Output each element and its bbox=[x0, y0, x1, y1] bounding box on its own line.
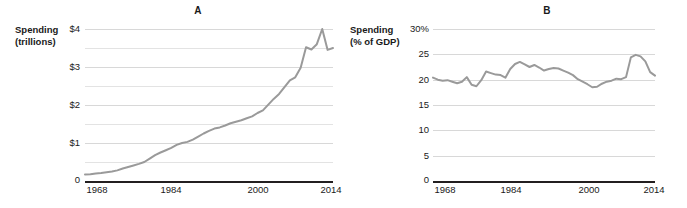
panel-a-plot-area: $4 $3 $2 $1 0 1968 1984 2000 2014 bbox=[85, 29, 333, 181]
panel-b-y-axis-title: Spending (% of GDP) bbox=[350, 24, 400, 47]
panel-b-y-axis-title-line1: Spending bbox=[350, 24, 400, 36]
ytick-b-20: 20 bbox=[399, 75, 429, 85]
panel-a-y-axis-title-line2: (trillions) bbox=[15, 36, 58, 48]
xtick-a-1968: 1968 bbox=[77, 184, 117, 195]
panel-a-x-axis-rule bbox=[85, 181, 333, 183]
xtick-b-1984: 1984 bbox=[491, 184, 531, 195]
ytick-b-15: 15 bbox=[399, 100, 429, 110]
xtick-a-2000: 2000 bbox=[238, 184, 278, 195]
ytick-b-10: 10 bbox=[399, 125, 429, 135]
xtick-b-1968: 1968 bbox=[425, 184, 465, 195]
panel-b-plot-area: 30% 25 20 15 10 5 0 1968 1984 2000 2014 bbox=[433, 29, 655, 181]
xtick-b-2000: 2000 bbox=[569, 184, 609, 195]
panel-a-y-axis-title-line1: Spending bbox=[15, 24, 58, 36]
ytick-a-1: $1 bbox=[54, 138, 80, 148]
ytick-a-2: $2 bbox=[54, 100, 80, 110]
panel-b-x-axis-rule bbox=[433, 181, 655, 183]
panel-a-y-axis-title: Spending (trillions) bbox=[15, 24, 58, 47]
chart-panel-a: A Spending (trillions) $4 $3 $2 $1 0 196… bbox=[0, 0, 345, 208]
ytick-b-25: 25 bbox=[399, 49, 429, 59]
panel-a-series-line bbox=[85, 29, 333, 181]
panel-a-title: A bbox=[188, 5, 208, 16]
ytick-a-4: $4 bbox=[54, 24, 80, 34]
chart-panel-b: B Spending (% of GDP) 30% 25 20 15 10 5 … bbox=[345, 0, 687, 208]
panel-b-y-axis-title-line2: (% of GDP) bbox=[350, 36, 400, 48]
panel-b-title: B bbox=[537, 5, 557, 16]
ytick-b-5: 5 bbox=[399, 151, 429, 161]
xtick-b-2014: 2014 bbox=[634, 184, 674, 195]
ytick-a-3: $3 bbox=[54, 62, 80, 72]
panel-b-series-line bbox=[433, 29, 655, 181]
xtick-a-1984: 1984 bbox=[151, 184, 191, 195]
ytick-b-30: 30% bbox=[399, 24, 429, 34]
